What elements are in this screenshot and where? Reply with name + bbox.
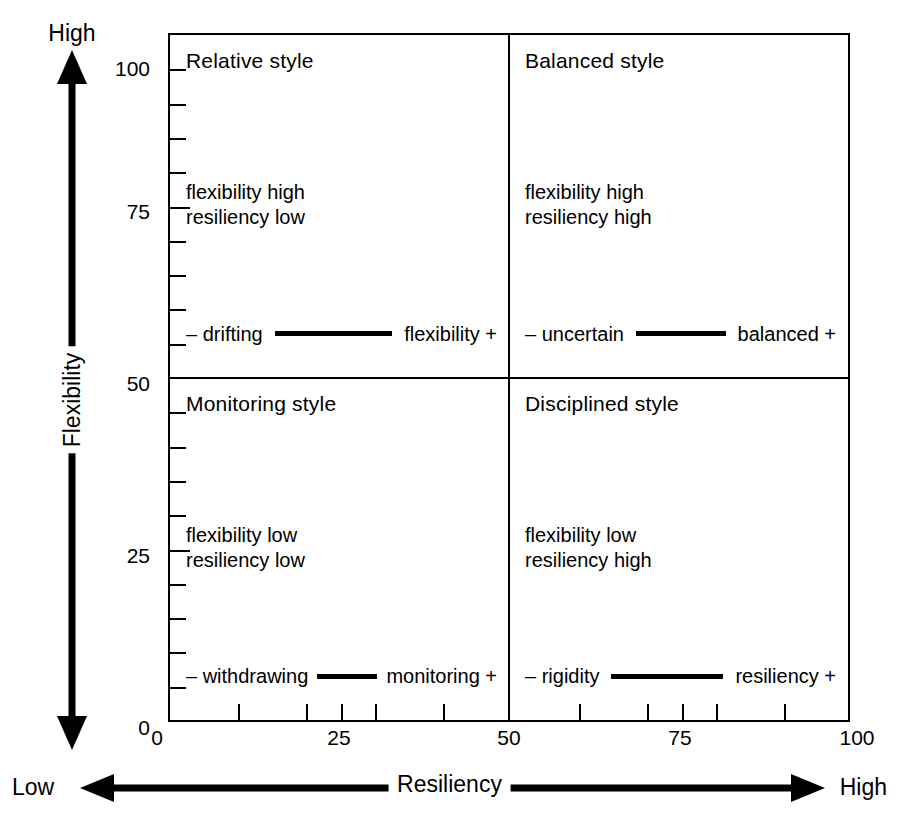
quadrant-title-monitoring: Monitoring style bbox=[186, 391, 509, 416]
y-axis-title: Flexibility bbox=[57, 347, 87, 454]
scale-positive-label: flexibility + bbox=[404, 323, 497, 345]
quadrant-relative-style: Relative style flexibility high resilien… bbox=[170, 35, 509, 378]
scale-negative-label: – rigidity bbox=[525, 665, 599, 687]
x-tick-label-75: 75 bbox=[668, 727, 691, 748]
quadrant-title-balanced: Balanced style bbox=[525, 48, 848, 73]
quadrant-description-line1: flexibility low bbox=[186, 523, 305, 548]
y-tick-label-50: 50 bbox=[0, 373, 150, 394]
quadrant-description-line1: flexibility high bbox=[525, 180, 652, 205]
flexibility-resiliency-matrix-figure: High Flexibility 100 75 50 25 0 bbox=[0, 0, 899, 827]
scale-positive-label: balanced + bbox=[738, 323, 836, 345]
y-tick-label-100: 100 bbox=[0, 58, 150, 79]
scale-positive-label: resiliency + bbox=[735, 665, 836, 687]
quadrant-description-line1: flexibility high bbox=[186, 180, 305, 205]
x-axis-title: Resiliency bbox=[388, 770, 511, 798]
scale-negative-label: – drifting bbox=[186, 323, 263, 345]
y-tick-label-0: 0 bbox=[0, 717, 150, 738]
quadrant-description-line2: resiliency high bbox=[525, 205, 652, 230]
quadrant-description-line2: resiliency high bbox=[525, 548, 652, 573]
y-axis-high-label: High bbox=[12, 20, 132, 46]
y-tick-label-75: 75 bbox=[0, 201, 150, 222]
quadrant-monitoring-style: Monitoring style flexibility low resilie… bbox=[170, 378, 509, 721]
quadrant-description-balanced: flexibility high resiliency high bbox=[525, 180, 652, 230]
quadrant-scale-relative: – drifting flexibility + bbox=[186, 323, 497, 345]
scale-positive-label: monitoring + bbox=[386, 665, 497, 687]
quadrant-title-relative: Relative style bbox=[186, 48, 509, 73]
x-tick-label-50: 50 bbox=[497, 727, 520, 748]
x-tick-label-100: 100 bbox=[839, 727, 874, 748]
quadrant-scale-disciplined: – rigidity resiliency + bbox=[525, 665, 836, 687]
quadrant-scale-balanced: – uncertain balanced + bbox=[525, 323, 836, 345]
y-axis-label-group: High Flexibility bbox=[12, 20, 132, 780]
quadrant-description-relative: flexibility high resiliency low bbox=[186, 180, 305, 230]
scale-negative-label: – withdrawing bbox=[186, 665, 308, 687]
quadrant-description-line1: flexibility low bbox=[525, 523, 652, 548]
quadrant-description-line2: resiliency low bbox=[186, 548, 305, 573]
scale-bar bbox=[317, 674, 377, 679]
quadrant-disciplined-style: Disciplined style flexibility low resili… bbox=[509, 378, 848, 721]
x-axis-low-label: Low bbox=[12, 773, 54, 801]
quadrant-balanced-style: Balanced style flexibility high resilien… bbox=[509, 35, 848, 378]
quadrant-description-disciplined: flexibility low resiliency high bbox=[525, 523, 652, 573]
quadrant-scale-monitoring: – withdrawing monitoring + bbox=[186, 665, 497, 687]
y-tick-label-25: 25 bbox=[0, 545, 150, 566]
quadrant-title-disciplined: Disciplined style bbox=[525, 391, 848, 416]
x-axis-high-label: High bbox=[840, 773, 887, 801]
scale-bar bbox=[636, 331, 726, 336]
quadrant-description-monitoring: flexibility low resiliency low bbox=[186, 523, 305, 573]
plot-area: Relative style flexibility high resilien… bbox=[168, 33, 850, 722]
x-axis-label-group: Low High Resiliency bbox=[12, 765, 887, 811]
quadrant-description-line2: resiliency low bbox=[186, 205, 305, 230]
x-tick-label-0: 0 bbox=[151, 727, 163, 748]
scale-bar bbox=[611, 674, 723, 679]
scale-bar bbox=[275, 331, 392, 336]
scale-negative-label: – uncertain bbox=[525, 323, 624, 345]
x-tick-label-25: 25 bbox=[327, 727, 350, 748]
